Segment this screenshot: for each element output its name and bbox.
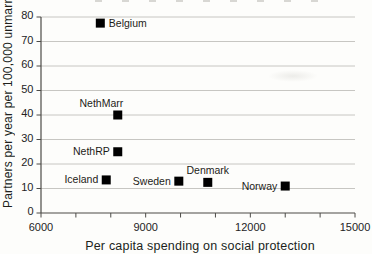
data-point-marker (113, 111, 122, 120)
y-tick-label: 40 (21, 107, 33, 119)
x-tick-label: 15000 (340, 221, 371, 233)
y-tick-label: 70 (21, 34, 33, 46)
y-tick-label: 0 (27, 205, 33, 217)
x-axis-title: Per capita spending on social protection (28, 239, 372, 253)
data-point-label: Denmark (186, 164, 229, 176)
data-point-label: Belgium (109, 17, 147, 29)
y-tick-label: 30 (21, 132, 33, 144)
data-point-marker (281, 182, 290, 191)
data-point-marker (96, 19, 105, 28)
data-point-marker (102, 175, 111, 184)
x-tick-label: 12000 (235, 221, 266, 233)
data-point-label: Iceland (64, 173, 98, 185)
scatter-plot: 01020304050607080600090001200015000Belgi… (0, 0, 372, 254)
x-tick-label: 6000 (29, 221, 53, 233)
y-tick-label: 50 (21, 83, 33, 95)
y-tick-label: 10 (21, 181, 33, 193)
y-tick-label: 80 (21, 9, 33, 21)
data-point-marker (113, 147, 122, 156)
y-axis-title: Partners per year per 100,000 unmarried (1, 8, 15, 208)
y-tick-label: 20 (21, 156, 33, 168)
x-tick-label: 9000 (133, 221, 157, 233)
data-point-marker (203, 178, 212, 187)
figure-page: 01020304050607080600090001200015000Belgi… (0, 0, 372, 254)
data-point-label: Sweden (133, 175, 171, 187)
y-tick-label: 60 (21, 58, 33, 70)
data-point-label: NethRP (73, 145, 110, 157)
data-point-marker (174, 177, 183, 186)
data-point-label: Norway (242, 180, 278, 192)
data-point-label: NethMarr (79, 97, 123, 109)
